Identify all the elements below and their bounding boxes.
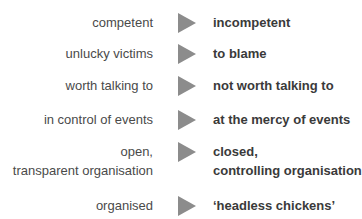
arrow-right-icon	[178, 142, 196, 162]
to-label-line1: closed,	[213, 142, 362, 161]
to-label: at the mercy of events	[213, 110, 350, 129]
from-label-line2: transparent organisation	[13, 161, 153, 180]
arrow-right-icon	[178, 13, 196, 33]
to-label: closed, controlling organisation	[213, 142, 362, 180]
arrow-right-icon	[178, 76, 196, 96]
arrow-right-icon	[178, 110, 196, 130]
from-label: organised	[96, 196, 153, 215]
to-label: ‘headless chickens’	[213, 196, 335, 215]
arrow-right-icon	[178, 44, 196, 64]
from-label: competent	[92, 13, 153, 32]
to-label: to blame	[213, 44, 266, 63]
arrow-right-icon	[178, 196, 196, 216]
to-label-line2: controlling organisation	[213, 161, 362, 180]
from-label: worth talking to	[66, 76, 153, 95]
to-label: not worth talking to	[213, 76, 334, 95]
from-label: unlucky victims	[66, 44, 153, 63]
from-label: in control of events	[44, 110, 153, 129]
from-label: open, transparent organisation	[13, 142, 153, 180]
from-label-line1: open,	[13, 142, 153, 161]
to-label: incompetent	[213, 13, 290, 32]
